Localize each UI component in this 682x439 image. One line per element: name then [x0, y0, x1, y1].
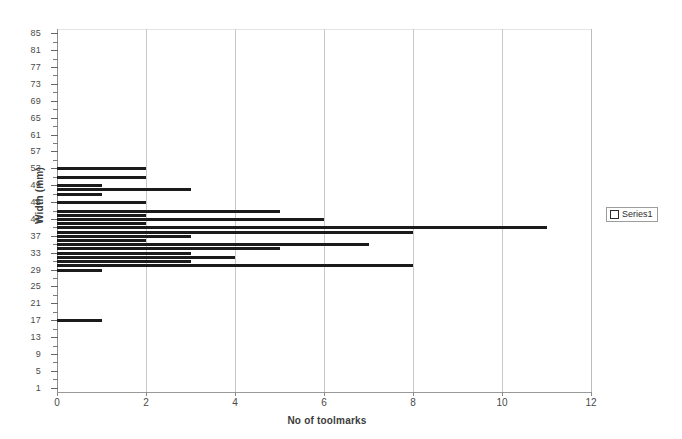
y-tick-label-21: 21 — [5, 299, 41, 308]
bar-width-35 — [57, 243, 369, 246]
x-axis-title: No of toolmarks — [197, 415, 457, 426]
y-tick-11 — [53, 346, 58, 347]
bar-width-29 — [57, 269, 102, 272]
bar-width-17 — [57, 319, 102, 322]
y-tick-19 — [53, 312, 58, 313]
x-tick-12 — [591, 392, 592, 396]
x-tick-label-2: 2 — [131, 398, 161, 408]
bar-width-42 — [57, 214, 146, 217]
x-tick-4 — [235, 392, 236, 396]
x-tick-label-6: 6 — [309, 398, 339, 408]
y-tick-label-29: 29 — [5, 266, 41, 275]
y-tick-59 — [53, 143, 58, 144]
y-tick-63 — [53, 126, 58, 127]
y-tick-label-13: 13 — [5, 333, 41, 342]
bar-width-30 — [57, 264, 413, 267]
y-tick-81 — [51, 50, 58, 51]
bar-width-51 — [57, 176, 146, 179]
x-tick-label-4: 4 — [220, 398, 250, 408]
y-tick-61 — [51, 135, 58, 136]
x-tick-8 — [413, 392, 414, 396]
legend-label: Series1 — [622, 210, 653, 219]
x-tick-label-10: 10 — [487, 398, 517, 408]
bar-width-53 — [57, 167, 146, 170]
bar-width-40 — [57, 222, 146, 225]
y-tick-label-25: 25 — [5, 282, 41, 291]
y-tick-label-69: 69 — [5, 97, 41, 106]
x-tick-0 — [57, 392, 58, 396]
y-tick-label-77: 77 — [5, 63, 41, 72]
y-tick-83 — [53, 42, 58, 43]
y-tick-23 — [53, 295, 58, 296]
y-tick-21 — [51, 303, 58, 304]
y-tick-79 — [53, 59, 58, 60]
x-tick-6 — [324, 392, 325, 396]
bar-width-47 — [57, 193, 102, 196]
bar-chart: 1591317212529333741454953576165697377818… — [0, 0, 682, 439]
y-tick-67 — [53, 109, 58, 110]
y-axis-title: Width (mm) — [34, 141, 45, 251]
bar-width-31 — [57, 260, 191, 263]
y-tick-57 — [51, 151, 58, 152]
bar-width-41 — [57, 218, 324, 221]
y-tick-15 — [53, 329, 58, 330]
x-tick-label-12: 12 — [576, 398, 606, 408]
y-tick-65 — [51, 118, 58, 119]
bar-width-32 — [57, 256, 235, 259]
x-tick-label-8: 8 — [398, 398, 428, 408]
y-tick-label-65: 65 — [5, 114, 41, 123]
bar-width-49 — [57, 184, 102, 187]
bar-width-34 — [57, 247, 280, 250]
y-tick-3 — [53, 379, 58, 380]
x-tick-10 — [502, 392, 503, 396]
bar-width-37 — [57, 235, 191, 238]
y-tick-55 — [53, 160, 58, 161]
hollow-square-icon — [610, 210, 619, 219]
gridline-x-6 — [324, 29, 325, 393]
y-tick-5 — [51, 371, 58, 372]
y-tick-75 — [53, 75, 58, 76]
y-tick-7 — [53, 362, 58, 363]
bar-width-38 — [57, 231, 413, 234]
bar-width-39 — [57, 226, 547, 229]
gridline-x-10 — [502, 29, 503, 393]
y-tick-77 — [51, 67, 58, 68]
y-tick-label-5: 5 — [5, 367, 41, 376]
y-tick-9 — [51, 354, 58, 355]
plot-border-right — [591, 29, 592, 393]
y-tick-71 — [53, 92, 58, 93]
y-tick-27 — [53, 278, 58, 279]
y-tick-label-17: 17 — [5, 316, 41, 325]
y-tick-label-61: 61 — [5, 131, 41, 140]
legend[interactable]: Series1 — [606, 207, 658, 222]
y-tick-label-85: 85 — [5, 29, 41, 38]
x-tick-2 — [146, 392, 147, 396]
bar-width-43 — [57, 210, 280, 213]
y-tick-1 — [51, 388, 58, 389]
y-tick-label-1: 1 — [5, 384, 41, 393]
x-tick-label-0: 0 — [42, 398, 72, 408]
bar-width-45 — [57, 201, 146, 204]
y-tick-label-9: 9 — [5, 350, 41, 359]
y-tick-25 — [51, 286, 58, 287]
y-tick-73 — [51, 84, 58, 85]
gridline-x-8 — [413, 29, 414, 393]
y-tick-13 — [51, 337, 58, 338]
y-tick-label-81: 81 — [5, 46, 41, 55]
bar-width-48 — [57, 188, 191, 191]
bar-width-36 — [57, 239, 146, 242]
y-tick-label-73: 73 — [5, 80, 41, 89]
y-tick-69 — [51, 101, 58, 102]
y-tick-85 — [51, 33, 58, 34]
bar-width-33 — [57, 252, 191, 255]
